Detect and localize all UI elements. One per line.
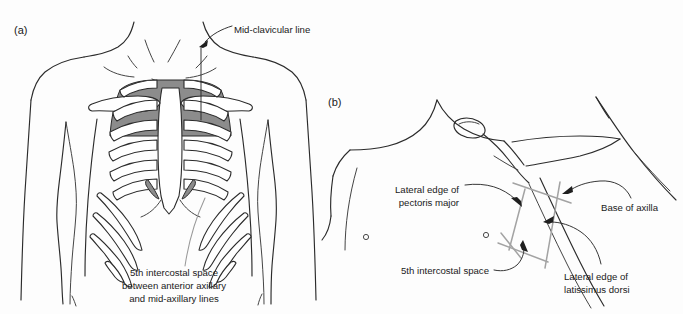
arrowhead-base-of-axilla: [562, 186, 573, 194]
annotation-fifth-intercostal-space-b: 5th intercostal space: [401, 240, 528, 276]
figure-canvas: (a): [0, 0, 683, 314]
arrowhead-fifth-intercostal-b: [520, 240, 528, 252]
label-mid-clavicular-line: Mid-clavicular line: [234, 24, 310, 35]
label-pectoris-major-line1: Lateral edge of: [395, 184, 459, 195]
arrowhead-mid-clavicular: [199, 40, 208, 48]
panel-a: (a): [14, 22, 316, 306]
label-latissimus-dorsi-line1: Lateral edge of: [564, 271, 628, 282]
label-fifth-intercostal-space-a-line3: and mid-axillary lines: [129, 293, 219, 304]
annotation-lateral-edge-latissimus-dorsi: Lateral edge of latissimus dorsi: [543, 216, 630, 295]
label-base-of-axilla: Base of axilla: [601, 202, 659, 213]
panel-a-rib-cage: [89, 80, 253, 287]
panel-a-label: (a): [14, 24, 27, 36]
label-pectoris-major-line2: pectoris major: [399, 197, 460, 208]
figure-container: (a): [0, 0, 683, 314]
nipple-marker-right: [483, 232, 488, 237]
label-fifth-intercostal-space-a-line1: 5th intercostal space: [130, 267, 218, 278]
panel-b-label: (b): [328, 96, 341, 108]
label-fifth-intercostal-space-b: 5th intercostal space: [401, 265, 489, 276]
arrowhead-pectoris-major: [511, 197, 522, 207]
annotation-lateral-edge-pectoris-major: Lateral edge of pectoris major: [395, 184, 522, 208]
panel-b: (b): [322, 96, 676, 308]
label-latissimus-dorsi-line2: latissimus dorsi: [564, 284, 630, 295]
annotation-base-of-axilla: Base of axilla: [562, 181, 659, 213]
nipple-marker-left: [363, 234, 368, 239]
label-fifth-intercostal-space-a-line2: between anterior axillary: [122, 280, 226, 291]
